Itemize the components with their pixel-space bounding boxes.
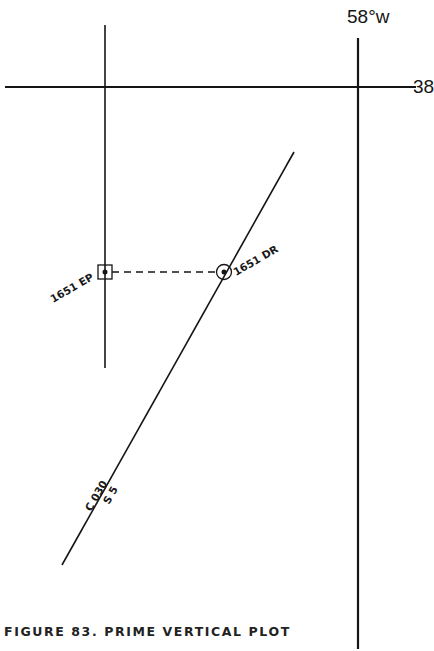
ep-dot-icon	[103, 270, 108, 275]
dr-label: 1651 DR	[231, 242, 280, 277]
ep-label: 1651 EP	[48, 270, 96, 304]
dr-dot-icon	[222, 270, 227, 275]
longitude-label: 58°w	[347, 6, 389, 28]
latitude-label: 38	[413, 76, 434, 98]
figure-caption: FIGURE 83. PRIME VERTICAL PLOT	[4, 624, 291, 639]
